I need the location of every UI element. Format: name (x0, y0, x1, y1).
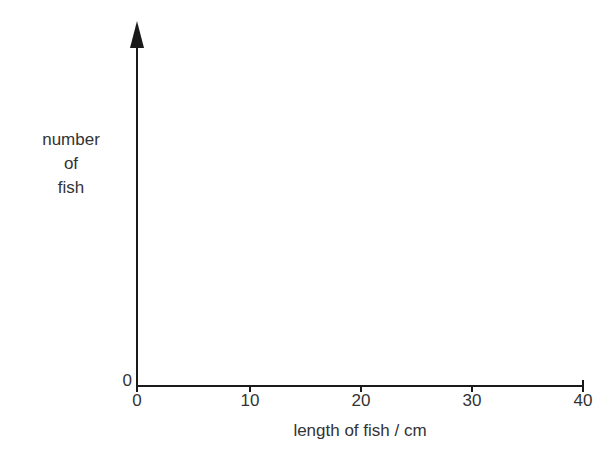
plot-area (138, 44, 584, 385)
x-axis-tick-label-10: 10 (220, 391, 280, 411)
x-axis-tick-0 (136, 378, 138, 392)
y-axis-title-line-1: number (16, 128, 126, 152)
y-axis-zero-label: 0 (108, 371, 132, 391)
x-axis-tick-label-40: 40 (553, 391, 612, 411)
x-axis-title: length of fish / cm (180, 420, 540, 442)
x-axis-tick-label-0: 0 (107, 391, 167, 411)
y-axis-title-line-3: fish (16, 176, 126, 200)
chart-figure: number of fish 0 0 10 20 30 40 length of… (0, 0, 612, 465)
y-axis-title-line-2: of (16, 152, 126, 176)
x-axis-tick-label-30: 30 (442, 391, 502, 411)
x-axis-tick-label-20: 20 (331, 391, 391, 411)
y-axis-title: number of fish (16, 128, 126, 200)
